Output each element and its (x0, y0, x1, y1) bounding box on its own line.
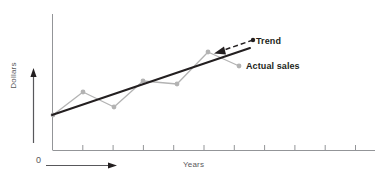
data-point (237, 64, 242, 69)
chart-canvas (0, 0, 383, 183)
x-axis-ticks (53, 145, 356, 150)
data-point (112, 105, 117, 110)
trend-annotation-arrow (214, 38, 255, 55)
dollars-axis-arrow (30, 68, 36, 143)
data-point (175, 82, 180, 87)
years-axis-arrow (46, 162, 117, 168)
x-axis-label: Years (183, 160, 204, 169)
actual-sales-series-label: Actual sales (246, 61, 300, 71)
origin-label: 0 (36, 155, 41, 165)
trend-vs-actual-sales-chart: Dollars Years 0 Trend Actual sales (0, 0, 383, 183)
trend-line (52, 48, 250, 115)
trend-series-label: Trend (256, 36, 281, 46)
data-point (81, 90, 86, 95)
y-axis-label: Dollars (9, 54, 18, 98)
data-point (206, 50, 211, 55)
